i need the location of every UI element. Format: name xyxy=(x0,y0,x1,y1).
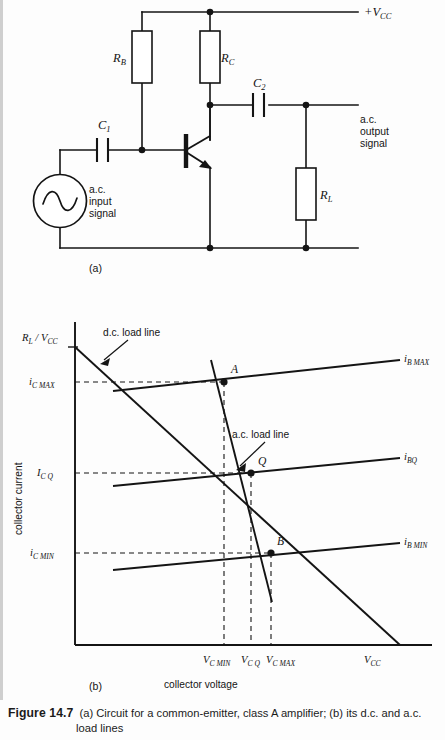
junction-collector-node xyxy=(207,102,214,109)
ytick-label-icq: IC Q xyxy=(36,467,53,481)
ac-output-label-line1: a.c. xyxy=(360,114,377,125)
curve-ibq xyxy=(113,458,400,486)
ac-input-label-line3: signal xyxy=(89,208,116,219)
xtick-label-vcc: VCC xyxy=(364,654,382,668)
marker-point-b xyxy=(267,549,274,556)
xtick-label-vcq: VC Q xyxy=(241,654,260,668)
junction-rl-ground xyxy=(303,245,310,252)
point-label-a: A xyxy=(230,363,239,376)
label-rl-over-vcc: RL / VCC xyxy=(21,332,59,346)
resistor-rc xyxy=(200,31,220,83)
ytick-label-ic-min: iC MIN xyxy=(30,547,55,561)
figure-caption-line2: load lines xyxy=(76,721,445,736)
panel-label-b: (b) xyxy=(89,680,102,692)
ac-output-label-line3: signal xyxy=(360,138,387,149)
junction-supply-node xyxy=(207,9,214,16)
ac-input-label-line2: input xyxy=(89,196,112,207)
marker-point-a xyxy=(220,378,227,385)
figure-number: Figure 14.7 xyxy=(8,706,73,720)
load-line-graph: RL / VCC iC MAX IC Q iC MIN iB MAX iBQ i… xyxy=(0,290,445,700)
junction-dots xyxy=(139,9,310,252)
operating-point-markers xyxy=(220,378,274,556)
curve-label-ib-max: iB MAX xyxy=(404,353,429,367)
figure-page: RB RC RL C1 C2 +VCC a.c. input signal a.… xyxy=(0,0,445,740)
annotation-ac-load-line: a.c. load line xyxy=(232,429,290,440)
label-c2: C2 xyxy=(253,76,266,92)
circuit-diagram: RB RC RL C1 C2 +VCC a.c. input signal a.… xyxy=(0,0,445,290)
y-axis-title: collector current xyxy=(13,462,24,535)
dc-arrow-line xyxy=(104,340,128,360)
ac-input-label-line1: a.c. xyxy=(89,184,106,195)
junction-output-node xyxy=(303,102,310,109)
label-supply-vcc: +VCC xyxy=(364,5,392,21)
curve-label-ib-min: iB MIN xyxy=(404,536,428,550)
resistor-rl xyxy=(296,168,316,220)
x-axis-title: collector voltage xyxy=(164,679,238,690)
point-label-b: B xyxy=(277,535,284,548)
resistor-rb xyxy=(132,31,152,83)
curve-label-ibq: iBQ xyxy=(404,451,418,465)
label-rb: RB xyxy=(112,51,126,67)
figure-caption-line1: (a) Circuit for a common-emitter, class … xyxy=(79,707,421,719)
annotation-dc-load-line: d.c. load line xyxy=(103,327,161,338)
curve-ib-max xyxy=(113,360,400,391)
label-rc: RC xyxy=(220,51,235,67)
panel-label-a: (a) xyxy=(89,262,102,274)
curve-ib-min xyxy=(113,543,400,570)
junction-base-node xyxy=(139,147,146,154)
point-label-q: Q xyxy=(258,455,267,468)
ac-output-label-line2: output xyxy=(360,126,389,137)
xtick-label-vc-min: VC MIN xyxy=(203,654,231,668)
figure-caption: Figure 14.7(a) Circuit for a common-emit… xyxy=(8,706,445,736)
xtick-label-vc-max: VC MAX xyxy=(266,654,295,668)
junction-emitter-ground xyxy=(207,245,214,252)
label-rl: RL xyxy=(319,188,333,204)
dc-load-line xyxy=(75,347,400,645)
npn-transistor-symbol xyxy=(186,134,212,169)
label-c1: C1 xyxy=(98,118,111,134)
ytick-label-ic-max: iC MAX xyxy=(29,376,55,390)
marker-point-q xyxy=(247,469,254,476)
